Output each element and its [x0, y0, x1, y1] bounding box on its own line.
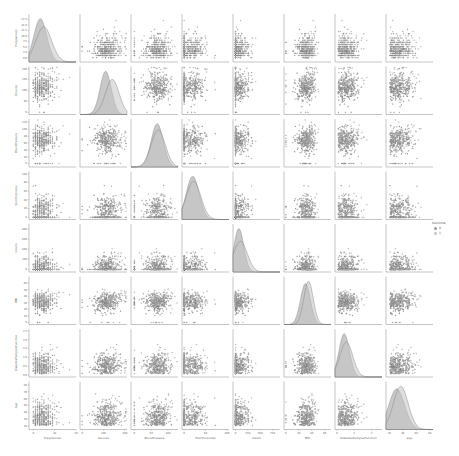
y-tick-label: 80: [24, 181, 28, 184]
panel-Insulin-vs-DiabetesPedigreeFunction: [335, 224, 382, 272]
y-tick-label: 100: [22, 89, 27, 92]
x-tick-label: 250: [245, 432, 250, 435]
y-tick-label: 400: [22, 248, 27, 251]
panel-Insulin-vs-Age: [386, 224, 433, 272]
x-tick-label: 60: [415, 432, 419, 435]
y-tick-label: 12.5: [21, 29, 27, 32]
x-tick-label: 20: [388, 432, 392, 435]
y-tick-label: 800: [22, 228, 27, 231]
y-tick-label: 20: [24, 425, 28, 428]
panel-SkinThickness-vs-DiabetesPedigreeFunction: [335, 172, 382, 220]
panel-SkinThickness-vs-Glucose: [80, 172, 127, 220]
panel-SkinThickness-vs-SkinThickness: [182, 172, 229, 220]
x-tick-label: 200: [122, 432, 127, 435]
panel-Glucose-vs-SkinThickness: [182, 67, 229, 115]
x-tick-label: 80: [428, 432, 432, 435]
y-tick-label: 15.0: [21, 24, 27, 27]
y-tick-label: 0: [25, 162, 27, 165]
panel-Age-vs-BloodPressure: 050100BloodPressure: [131, 382, 178, 440]
y-axis-label: Age: [14, 403, 18, 409]
x-tick-label: 40: [401, 432, 405, 435]
panel-BMI-vs-BMI: [284, 277, 331, 325]
panel-DiabetesPedigreeFunction-vs-Insulin: [233, 329, 280, 377]
x-tick-label: 0: [183, 432, 185, 435]
panel-BMI-vs-Pregnancies: 0102030405060BMI: [14, 277, 76, 325]
y-tick-label: 200: [22, 258, 27, 261]
panel-BloodPressure-vs-BMI: [284, 119, 331, 167]
x-tick-label: 500: [258, 432, 263, 435]
legend-label-1: 1: [439, 231, 441, 236]
panel-Glucose-vs-Insulin: [233, 67, 280, 115]
y-tick-label: 1.0: [23, 356, 27, 359]
y-tick-label: 50: [24, 289, 28, 292]
panel-SkinThickness-vs-Age: [386, 172, 433, 220]
x-tick-label: 0: [336, 432, 338, 435]
y-tick-label: 150: [22, 78, 27, 81]
panel-DiabetesPedigreeFunction-vs-BloodPressure: [131, 329, 178, 377]
panel-SkinThickness-vs-BloodPressure: [131, 172, 178, 220]
y-axis-label: BloodPressure: [14, 133, 18, 153]
legend: Outcome 0 1: [432, 221, 459, 236]
panel-DiabetesPedigreeFunction-vs-Glucose: [80, 329, 127, 377]
panel-Glucose-vs-DiabetesPedigreeFunction: [335, 67, 382, 115]
y-tick-label: 40: [24, 411, 28, 414]
panel-DiabetesPedigreeFunction-vs-BMI: [284, 329, 331, 377]
panel-Glucose-vs-Glucose: [80, 67, 127, 115]
x-tick-label: 0: [235, 432, 237, 435]
panel-Glucose-vs-Pregnancies: 050100150200Glucose: [14, 67, 76, 115]
x-tick-label: 0: [81, 432, 83, 435]
y-tick-label: 60: [24, 398, 28, 401]
x-axis-label: BloodPressure: [145, 436, 165, 440]
panel-Pregnancies-vs-SkinThickness: [182, 14, 229, 62]
y-tick-label: 0: [25, 321, 27, 324]
y-tick-label: 40: [24, 199, 28, 202]
y-tick-label: 10.0: [21, 35, 27, 38]
x-tick-label: 40: [310, 432, 314, 435]
y-tick-label: 17.5: [21, 18, 27, 21]
panel-Pregnancies-vs-Insulin: [233, 14, 280, 62]
y-tick-label: 600: [22, 238, 27, 241]
y-tick-label: 30: [24, 418, 28, 421]
y-tick-label: 0.0: [23, 57, 27, 60]
panel-BloodPressure-vs-BloodPressure: [131, 119, 178, 167]
panel-Insulin-vs-Insulin: [233, 224, 280, 272]
panel-Age-vs-Pregnancies: 20304050607080Age01020Pregnancies: [14, 382, 78, 440]
legend-item-1: 1: [432, 231, 459, 236]
y-tick-label: 80: [24, 384, 28, 387]
panel-Pregnancies-vs-DiabetesPedigreeFunction: [335, 14, 382, 62]
panel-BloodPressure-vs-Pregnancies: 020406080100120BloodPressure: [14, 119, 76, 167]
y-tick-label: 50: [24, 100, 28, 103]
y-axis-label: DiabetesPedigreeFunction: [14, 335, 18, 372]
y-tick-label: 200: [22, 68, 27, 71]
legend-marker-1: [434, 232, 437, 235]
y-axis-label: BMI: [14, 298, 18, 303]
panel-Insulin-vs-BloodPressure: [131, 224, 178, 272]
panel-Pregnancies-vs-BloodPressure: [131, 14, 178, 62]
y-axis-label: SkinThickness: [14, 185, 18, 205]
x-tick-label: 0: [134, 432, 136, 435]
y-tick-label: 0.5: [23, 365, 27, 368]
y-axis-label: Pregnancies: [14, 29, 18, 47]
panel-Glucose-vs-BloodPressure: [131, 67, 178, 115]
panel-BloodPressure-vs-Glucose: [80, 119, 127, 167]
y-tick-label: 80: [24, 135, 28, 138]
y-tick-label: 60: [24, 190, 28, 193]
x-tick-label: 100: [101, 432, 106, 435]
x-tick-label: 100: [224, 432, 229, 435]
x-tick-label: 0: [32, 432, 34, 435]
panel-Pregnancies-vs-Age: [386, 14, 433, 62]
panel-BloodPressure-vs-Insulin: [233, 119, 280, 167]
panel-Pregnancies-vs-Pregnancies: 0.02.55.07.510.012.515.017.5Pregnancies: [14, 14, 76, 62]
y-tick-label: 2.0: [23, 339, 27, 342]
y-tick-label: 30: [24, 302, 28, 305]
y-tick-label: 40: [24, 149, 28, 152]
y-tick-label: 120: [22, 121, 27, 124]
x-tick-label: 750: [270, 432, 275, 435]
y-tick-label: 60: [24, 282, 28, 285]
panel-Insulin-vs-Glucose: [80, 224, 127, 272]
x-axis-label: Pregnancies: [44, 436, 62, 440]
y-tick-label: 20: [24, 308, 28, 311]
panel-Insulin-vs-BMI: [284, 224, 331, 272]
panel-Insulin-vs-Pregnancies: 0200400600800Insulin: [14, 224, 76, 272]
y-tick-label: 10: [24, 315, 28, 318]
